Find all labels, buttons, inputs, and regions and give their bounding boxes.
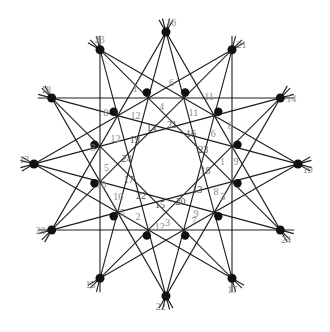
region-label: 4 [159, 101, 164, 112]
outer-node [47, 94, 56, 103]
outer-node-label: 22 [156, 301, 166, 312]
connection-line-13-14 [21, 94, 294, 167]
outer-node [96, 274, 105, 283]
inner-node [110, 108, 118, 116]
region-label: 11 [189, 107, 199, 118]
connection-line-20-21 [42, 40, 242, 240]
inner-node [181, 231, 189, 239]
inner-node-label: 8 [104, 107, 109, 118]
ring-label: 16 [186, 128, 196, 139]
outer-node [162, 292, 171, 301]
ring-label: 20 [176, 196, 186, 207]
inner-node-label: 11 [204, 91, 214, 102]
region-label: 2 [136, 211, 141, 222]
region-label: 5 [104, 162, 109, 173]
connection-line-17-18 [42, 88, 242, 288]
region-label: 9 [194, 208, 199, 219]
outer-node-label: 20 [36, 225, 46, 236]
ring-label: 15 [155, 199, 165, 210]
inner-node [143, 231, 151, 239]
inner-node [233, 141, 241, 149]
line-layer [21, 19, 312, 310]
outer-node-label: 15 [86, 279, 96, 290]
inner-node-label: 3 [220, 191, 225, 202]
star-configuration-diagram: 1611893712510381621141924172215201318231… [0, 0, 330, 332]
ring-label: 14 [146, 122, 156, 133]
region-label: 6 [211, 128, 216, 139]
outer-node-label: 13 [19, 154, 29, 165]
outer-node [96, 45, 105, 54]
ring-label: 13 [192, 184, 202, 195]
region-label: 1 [220, 156, 225, 167]
outer-node [30, 160, 39, 169]
outer-node [294, 160, 303, 169]
inner-node-label: 5 [120, 207, 125, 218]
inner-node [181, 88, 189, 96]
connection-line-13-21 [22, 43, 244, 171]
outer-node-label: 19 [303, 164, 313, 175]
outer-node [162, 28, 171, 37]
connection-line-19-15 [88, 157, 310, 285]
outer-node [228, 45, 237, 54]
outer-node-label: 17 [227, 284, 237, 295]
ring-label: 22 [136, 190, 146, 201]
inner-node-label: 1 [133, 83, 138, 94]
outer-node [228, 274, 237, 283]
ring-label: 18 [201, 165, 211, 176]
outer-node [276, 94, 285, 103]
region-label: 12 [131, 110, 141, 121]
ring-label: 24 [121, 153, 131, 164]
inner-node-label: 10 [96, 179, 106, 190]
region-label: 3 [165, 217, 170, 228]
inner-node-label: 9 [234, 156, 239, 167]
node-layer [30, 28, 303, 301]
region-label: 8 [214, 186, 219, 197]
outer-node-label: 14 [286, 93, 296, 104]
ring-label: 23 [198, 144, 208, 155]
ring-label: 21 [167, 119, 177, 130]
inner-node [214, 108, 222, 116]
inner-node [233, 179, 241, 187]
inner-node-label: 12 [155, 221, 165, 232]
region-label: 12 [110, 133, 120, 144]
outer-node [47, 226, 56, 235]
inner-node [214, 212, 222, 220]
inner-node-label: 8 [228, 120, 233, 131]
outer-node-label: 16 [166, 17, 176, 28]
outer-node-label: 18 [41, 84, 51, 95]
inner-node-label: 6 [169, 77, 174, 88]
connection-line-22-18 [45, 86, 173, 308]
region-label: 10 [113, 191, 123, 202]
ring-label: 19 [130, 134, 140, 145]
label-layer: 1611893712510381621141924172215201318231… [19, 17, 312, 311]
connection-line-18-19 [38, 94, 311, 167]
inner-node [143, 88, 151, 96]
outer-node-label: 23 [95, 34, 105, 45]
connection-line-16-24 [159, 20, 287, 242]
ring-label: 17 [124, 174, 134, 185]
inner-node [110, 212, 118, 220]
outer-node-label: 21 [236, 39, 246, 50]
outer-node-label: 24 [281, 234, 291, 245]
outer-node [276, 226, 285, 235]
inner-node-label: 3 [90, 142, 95, 153]
connection-line-15-16 [96, 19, 169, 292]
